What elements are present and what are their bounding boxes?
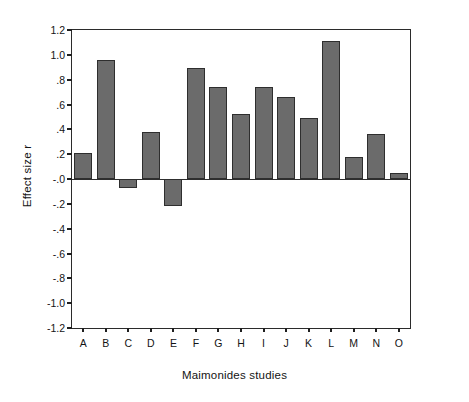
x-axis-tick-label: L [328,337,334,349]
chart-figure: Effect size r 1.21.0.8.6.4.2-.0-.2-.4-.6… [0,0,469,402]
x-axis-tick-label: O [395,337,403,349]
x-axis-tick [240,328,242,332]
y-axis-tick [67,302,72,304]
y-axis-tick-label: .8 [56,74,65,86]
y-axis-tick [67,104,72,106]
y-axis-tick-label: -1.2 [47,322,65,334]
bar-b [97,60,115,179]
x-axis-tick-label: D [147,337,155,349]
x-axis-tick-label: E [170,337,177,349]
y-axis-tick [67,203,72,205]
bar-n [367,134,385,179]
y-axis-tick [67,153,72,155]
x-axis-tick-label: N [372,337,380,349]
x-axis-tick [82,328,84,332]
bar-h [232,114,250,179]
bar-i [255,87,273,179]
x-axis-tick [398,328,400,332]
bar-j [277,97,295,179]
y-axis-tick [67,54,72,56]
x-axis-tick [263,328,265,332]
x-axis-tick [375,328,377,332]
y-axis-tick-label: .6 [56,99,65,111]
x-axis-tick [353,328,355,332]
bar-k [300,118,318,179]
y-axis-tick [67,79,72,81]
x-axis-tick [127,328,129,332]
x-axis-tick-label: M [349,337,358,349]
x-axis-tick [195,328,197,332]
y-axis-tick [67,327,72,329]
x-axis-tick-label: C [125,337,133,349]
y-axis-tick-label: -1.0 [47,297,65,309]
y-axis-tick [67,29,72,31]
bar-c [119,179,137,188]
y-axis-title: Effect size r [21,106,33,246]
bar-m [345,157,363,179]
x-axis-tick-label: F [193,337,199,349]
x-axis-tick [105,328,107,332]
y-axis-tick-label: .4 [56,123,65,135]
x-axis-tick [330,328,332,332]
x-axis-tick-label: K [305,337,312,349]
x-axis-tick-label: A [80,337,87,349]
x-axis-tick [172,328,174,332]
bar-d [142,132,160,179]
bar-series [72,30,410,328]
x-axis-tick-label: B [102,337,109,349]
y-axis-tick-label: -.6 [53,248,65,260]
x-axis-tick [217,328,219,332]
y-axis-tick-label: -.2 [53,198,65,210]
bar-f [187,68,205,179]
y-axis-tick-label: .2 [56,148,65,160]
y-axis-tick [67,253,72,255]
bar-a [74,153,92,179]
x-axis-tick-label: J [283,337,288,349]
y-axis-tick [67,277,72,279]
bar-o [390,173,408,179]
bar-g [209,87,227,179]
y-axis-tick-label: -.4 [53,223,65,235]
bar-l [322,41,340,179]
x-axis-tick [150,328,152,332]
y-axis-tick-label: 1.2 [50,24,65,36]
y-axis-tick-label: -.0 [53,173,65,185]
y-axis-tick-label: -.8 [53,272,65,284]
y-axis-tick [67,178,72,180]
bar-e [164,179,182,206]
x-axis-tick [285,328,287,332]
plot-area: 1.21.0.8.6.4.2-.0-.2-.4-.6-.8-1.0-1.2 AB… [71,29,411,329]
y-axis-tick [67,228,72,230]
x-axis-title: Maimonides studies [0,369,469,381]
y-axis-tick [67,128,72,130]
x-axis-tick-label: H [237,337,245,349]
x-axis-tick-label: G [214,337,222,349]
x-axis-tick [308,328,310,332]
x-axis-tick-label: I [262,337,265,349]
y-axis-tick-label: 1.0 [50,49,65,61]
